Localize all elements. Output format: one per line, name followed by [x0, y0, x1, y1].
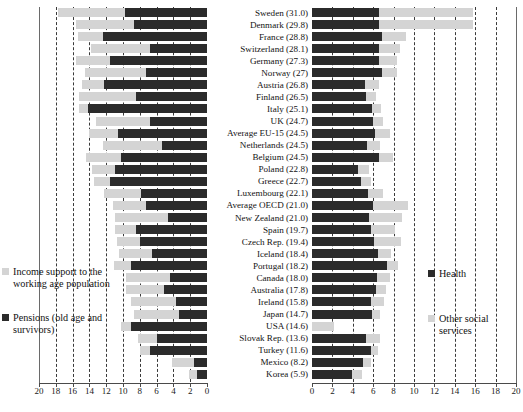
bar-segment-health [312, 297, 371, 306]
bar-segment-pensions [103, 32, 207, 41]
bar-segment-income-support [89, 129, 118, 138]
bar-segment-other-social-services [382, 32, 405, 41]
category-label: Greece (22.7) [258, 177, 308, 186]
category-label: Ireland (15.8) [258, 298, 308, 307]
bar-row [39, 44, 207, 53]
bar-segment-other-social-services [365, 80, 379, 89]
bar-row [39, 213, 207, 222]
bar-row [312, 213, 516, 222]
bar-segment-pensions [152, 249, 207, 258]
axis-tick-label: 8 [384, 386, 404, 396]
category-label: Slovak Rep. (13.6) [239, 334, 308, 343]
category-label: Luxembourg (22.1) [237, 189, 308, 198]
bar-segment-health [312, 310, 372, 319]
bar-segment-income-support [86, 153, 121, 162]
bar-segment-income-support [78, 32, 103, 41]
bar-row [312, 141, 516, 150]
bar-row [312, 8, 516, 17]
bar-segment-pensions [197, 370, 207, 379]
bar-segment-income-support [119, 249, 153, 258]
bar-segment-health [312, 141, 367, 150]
category-label: France (28.8) [259, 33, 308, 42]
axis-tick-label: 14 [445, 386, 465, 396]
bar-row [39, 141, 207, 150]
axis-tick [190, 383, 191, 387]
axis-tick-label: 12 [424, 386, 444, 396]
bar-row [312, 273, 516, 282]
category-label: Czech Rep. (19.4) [242, 238, 308, 247]
bar-row [39, 297, 207, 306]
bar-segment-income-support [117, 237, 140, 246]
bar-segment-income-support [96, 117, 150, 126]
axis-tick-label: 16 [465, 386, 485, 396]
bar-segment-other-social-services [375, 129, 389, 138]
bar-segment-health [312, 370, 352, 379]
axis-tick-label: 2 [322, 386, 342, 396]
bar-row [312, 237, 516, 246]
bar-row [39, 370, 207, 379]
bar-row [39, 165, 207, 174]
bar-segment-pensions [179, 310, 207, 319]
category-label: Switzerland (28.1) [240, 45, 308, 54]
axis-tick [516, 383, 517, 387]
bar-segment-income-support [131, 297, 176, 306]
axis-tick [140, 383, 141, 387]
bar-segment-other-social-services [374, 237, 401, 246]
bar-segment-income-support [79, 92, 136, 101]
bar-segment-pensions [157, 334, 207, 343]
bar-segment-health [312, 104, 372, 113]
bar-segment-pensions [162, 141, 207, 150]
bar-segment-health [312, 80, 365, 89]
bar-segment-health [312, 92, 366, 101]
axis-tick-label: 10 [404, 386, 424, 396]
axis-tick [312, 383, 313, 387]
category-label: UK (24.7) [271, 117, 308, 126]
bar-segment-pensions [164, 285, 207, 294]
bar-segment-other-social-services [382, 68, 396, 77]
bar-segment-income-support [126, 273, 171, 282]
axis-tick [89, 383, 90, 387]
axis-tick [353, 383, 354, 387]
bar-segment-pensions [125, 8, 207, 17]
bar-segment-other-social-services [372, 310, 380, 319]
bar-segment-other-social-services [358, 165, 369, 174]
axis-tick-label: 6 [363, 386, 383, 396]
category-label: Turkey (11.6) [258, 346, 308, 355]
bar-segment-health [312, 44, 379, 53]
axis-tick [73, 383, 74, 387]
bar-row [39, 201, 207, 210]
bar-segment-health [312, 358, 363, 367]
category-label: Australia (17.8) [250, 286, 308, 295]
bar-segment-pensions [146, 201, 207, 210]
category-label: Korea (5.9) [266, 370, 308, 379]
bar-row [312, 92, 516, 101]
bar-segment-other-social-services [387, 261, 397, 270]
bar-row [312, 358, 516, 367]
category-label: Iceland (18.4) [257, 250, 308, 259]
legend-swatch-dark-icon [428, 270, 435, 277]
bar-row [39, 358, 207, 367]
bar-row [312, 297, 516, 306]
bar-segment-health [312, 346, 371, 355]
bar-segment-income-support [126, 285, 165, 294]
bar-segment-health [312, 68, 382, 77]
bar-segment-other-social-services [373, 117, 383, 126]
axis-tick [332, 383, 333, 387]
bar-segment-income-support [76, 20, 134, 29]
bar-segment-pensions [150, 44, 207, 53]
legend-item-income-support: Income support to the working age popula… [2, 266, 130, 289]
bar-segment-other-social-services [366, 92, 376, 101]
bar-row [312, 201, 516, 210]
bar-row [312, 189, 516, 198]
bar-row [39, 249, 207, 258]
legend-item-pensions: Pensions (old age and survivors) [2, 312, 130, 335]
axis-tick-label: 0 [197, 386, 217, 396]
axis-tick [106, 383, 107, 387]
bar-row [312, 117, 516, 126]
bar-segment-other-social-services [378, 249, 390, 258]
axis-tick [455, 383, 456, 387]
bar-segment-pensions [110, 177, 207, 186]
category-label: Average EU-15 (24.5) [227, 129, 308, 138]
bar-row [39, 117, 207, 126]
bar-segment-other-social-services [377, 273, 389, 282]
